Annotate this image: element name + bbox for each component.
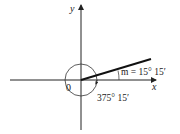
- angle-label: 375° 15′: [97, 93, 129, 103]
- x-axis-label: x: [151, 81, 157, 92]
- y-axis-label: y: [69, 3, 75, 14]
- angle-diagram: y x 0 m = 15° 15′ 375° 15′: [0, 0, 180, 134]
- reference-angle-label: m = 15° 15′: [121, 67, 166, 77]
- reference-angle-arc: [118, 71, 119, 81]
- origin-label: 0: [66, 82, 71, 93]
